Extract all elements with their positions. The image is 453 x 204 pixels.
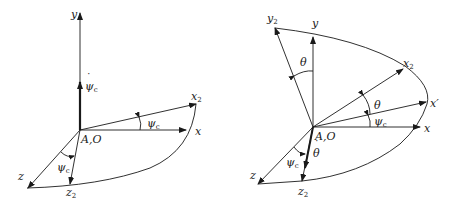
right-arc	[258, 28, 428, 184]
left-psi-arc-xy	[139, 117, 141, 130]
right-theta-dot-vector	[305, 127, 313, 168]
left-label-y: y	[71, 9, 77, 20]
left-arc	[27, 104, 196, 188]
right-label-x2: x2	[403, 58, 414, 71]
coordinate-rotation-figure: y ψc x2 x ψc A,O ψc z z2 y2 y θ x2 θ x′ …	[0, 0, 453, 204]
right-panel	[258, 28, 428, 184]
left-label-origin: A,O	[81, 134, 101, 145]
right-y2-axis	[275, 28, 313, 127]
left-label-z2: z2	[66, 187, 76, 200]
left-z-axis	[28, 130, 80, 188]
right-psi-arc-x	[368, 115, 370, 127]
left-label-x2: x2	[191, 91, 202, 104]
right-label-x: x	[424, 123, 430, 134]
left-psi-arc-z	[61, 152, 74, 157]
left-z2-axis	[70, 130, 80, 184]
left-label-x: x	[195, 126, 201, 137]
left-panel	[27, 13, 196, 188]
left-label-z: z	[18, 171, 24, 182]
right-label-z: z	[250, 170, 256, 181]
right-psi-arc-z	[294, 147, 305, 154]
right-label-theta-x: θ	[374, 100, 381, 111]
left-label-psi-xy: ψc	[147, 118, 160, 131]
left-x2-axis	[80, 104, 196, 130]
right-label-z2: z2	[298, 186, 308, 199]
right-label-y2: y2	[267, 13, 278, 26]
left-label-psi-z: ψc	[57, 162, 70, 175]
right-label-theta-y: θ	[300, 57, 307, 68]
right-theta-arc-y	[294, 71, 313, 76]
right-label-y: y	[312, 18, 318, 29]
right-x2-axis	[313, 69, 403, 127]
left-label-psi-dot: ψc	[85, 81, 98, 94]
right-theta-arc-x	[363, 95, 370, 114]
right-label-theta-dot: θ	[313, 148, 320, 159]
right-label-psi-x: ψc	[374, 116, 387, 129]
right-label-x-prime: x′	[430, 98, 439, 109]
right-x-prime-axis	[313, 102, 426, 127]
right-label-psi-z: ψc	[286, 157, 299, 170]
